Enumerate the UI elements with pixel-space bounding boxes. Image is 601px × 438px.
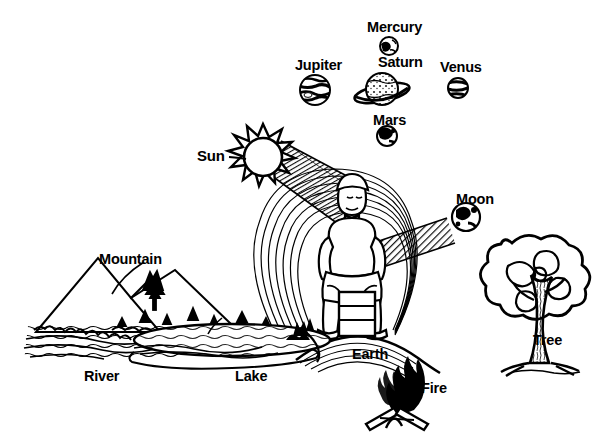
tree-figure <box>480 235 589 376</box>
seat-box <box>339 292 375 336</box>
label-fire: Fire <box>421 381 447 396</box>
venus-icon <box>448 78 468 98</box>
label-tree: Tree <box>533 333 562 348</box>
label-moon: Moon <box>456 192 494 207</box>
moon-body <box>452 203 480 231</box>
label-mars: Mars <box>373 113 406 128</box>
mars-icon <box>377 126 397 146</box>
label-earth: Earth <box>352 347 388 362</box>
diagram-canvas: Mercury Jupiter Saturn Venus Mars Sun Mo… <box>0 0 601 438</box>
label-saturn: Saturn <box>378 55 423 70</box>
label-sun: Sun <box>197 148 225 163</box>
label-mercury: Mercury <box>367 20 422 35</box>
campfire <box>366 356 428 430</box>
tree-roots <box>501 363 580 376</box>
label-venus: Venus <box>440 60 482 75</box>
label-mountain: Mountain <box>99 252 162 267</box>
mercury-icon <box>380 37 398 55</box>
label-lake: Lake <box>235 369 267 384</box>
jupiter-icon <box>299 75 330 105</box>
label-jupiter: Jupiter <box>295 58 342 73</box>
saturn-icon <box>353 73 411 107</box>
label-river: River <box>84 369 119 384</box>
